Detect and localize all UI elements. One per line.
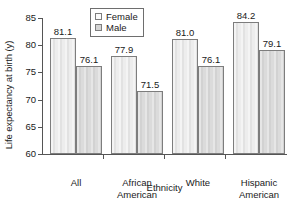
bar-female-african-american[interactable]: 77.9 <box>111 56 137 154</box>
bar-value-label: 81.1 <box>54 26 73 37</box>
y-tick-label: 80 <box>25 38 36 51</box>
legend-swatch-male-icon <box>95 24 102 31</box>
bar-female-all[interactable]: 81.1 <box>50 38 76 154</box>
y-tick-label: 65 <box>25 120 36 133</box>
bar-male-white[interactable]: 76.1 <box>198 66 224 154</box>
bar-male-african-american[interactable]: 71.5 <box>137 91 163 154</box>
x-tick <box>164 154 165 159</box>
bar-value-label: 84.2 <box>237 10 256 21</box>
legend-item-female[interactable]: Female <box>95 11 138 22</box>
legend-label-female: Female <box>106 11 138 22</box>
bar-chart-figure: Life expectancy at birth (y) 85 80 75 70… <box>0 0 293 205</box>
bar-value-label: 76.1 <box>80 54 99 65</box>
x-tick <box>103 154 104 159</box>
y-tick-label: 70 <box>25 93 36 106</box>
y-tick-label: 60 <box>25 147 36 160</box>
legend-label-male: Male <box>106 22 127 33</box>
legend-swatch-female-icon <box>95 13 102 20</box>
x-tick <box>225 154 226 159</box>
bar-value-label: 76.1 <box>202 54 221 65</box>
bar-value-label: 77.9 <box>115 44 134 55</box>
bar-value-label: 79.1 <box>263 38 282 49</box>
legend-item-male[interactable]: Male <box>95 22 138 33</box>
plot-area: 85 80 75 70 65 60 81.1 76. <box>42 18 287 155</box>
bar-male-hispanic-american[interactable]: 79.1 <box>259 50 285 154</box>
x-axis-title: Ethnicity <box>42 182 287 194</box>
bar-value-label: 71.5 <box>141 79 160 90</box>
y-tick-label: 85 <box>25 11 36 24</box>
chart-legend: Female Male <box>90 8 144 37</box>
y-axis-title: Life expectancy at birth (y) <box>2 15 16 175</box>
bar-female-hispanic-american[interactable]: 84.2 <box>233 22 259 154</box>
bar-male-all[interactable]: 76.1 <box>76 66 102 154</box>
y-tick-label: 75 <box>25 65 36 78</box>
bar-value-label: 81.0 <box>176 27 195 38</box>
y-axis-line <box>42 18 43 155</box>
bar-female-white[interactable]: 81.0 <box>172 39 198 154</box>
